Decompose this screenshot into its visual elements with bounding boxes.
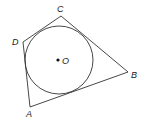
vertex-label-c: C <box>57 4 64 14</box>
vertex-label-b: B <box>131 70 137 80</box>
geometry-diagram: C D B A O <box>0 0 144 120</box>
vertex-label-d: D <box>12 37 19 47</box>
center-point-o <box>56 58 59 61</box>
center-label-o: O <box>62 56 69 66</box>
quadrilateral-abcd <box>23 16 128 107</box>
vertex-label-a: A <box>25 109 32 119</box>
